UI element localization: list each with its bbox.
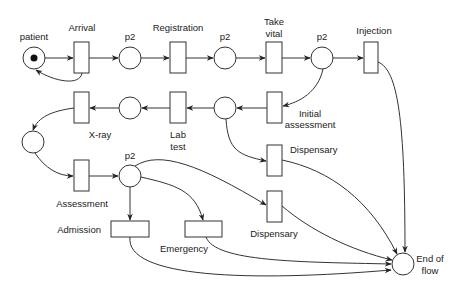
transition-initial-assessment[interactable]: Initial assessment (267, 92, 336, 130)
place-label: patient (20, 31, 49, 42)
place-before-lab-test[interactable] (214, 97, 236, 119)
transition-injection[interactable]: Injection (356, 25, 391, 73)
place-p2-after-arrival[interactable]: p2 (119, 31, 141, 69)
place-patient[interactable]: patient (20, 31, 49, 69)
petri-net-diagram: patient p2 p2 p2 p2 End of flow Arrival … (0, 0, 462, 290)
token-icon (31, 55, 38, 62)
place-p2-after-take-vital[interactable]: p2 (311, 31, 333, 69)
arc-p2-emergency (141, 177, 203, 220)
arc-p2-dispensary (135, 160, 266, 205)
transition-registration[interactable]: Registration (153, 22, 204, 73)
transition-label: X-ray (89, 129, 112, 140)
transition-label: Registration (153, 22, 204, 33)
place-p2-after-assessment[interactable]: p2 (119, 150, 141, 187)
transition-dispensary-2[interactable]: Dispensary (250, 191, 298, 239)
transition-label: Arrival (69, 22, 96, 33)
transition-label: Emergency (160, 243, 208, 254)
transition-lab-test[interactable]: Lab test (170, 92, 186, 152)
transition-label: Dispensary (290, 144, 338, 155)
transition-label-line2: vital (266, 28, 283, 39)
arc-dispensary2-end (282, 206, 392, 260)
arc-emergency-end (206, 237, 391, 264)
arc-injection-end (378, 62, 405, 252)
place-end-of-flow[interactable]: End of flow (392, 253, 444, 276)
place-p2-after-registration[interactable]: p2 (214, 31, 236, 69)
transition-assessment[interactable]: Assessment (56, 160, 108, 209)
transition-arrival[interactable]: Arrival (69, 22, 96, 73)
place-label: p2 (317, 31, 328, 42)
transition-label: Admission (57, 224, 101, 235)
transition-label-line1: Take (264, 16, 284, 27)
transition-label-line2: test (170, 141, 186, 152)
transition-label-line2: assessment (285, 119, 336, 130)
arc-place-assessment (35, 153, 73, 176)
transition-label-line1: Lab (170, 129, 186, 140)
place-before-xray[interactable] (119, 97, 141, 119)
arc-xray-place (33, 108, 74, 130)
transition-xray[interactable]: X-ray (74, 92, 112, 140)
place-label: p2 (220, 31, 231, 42)
transition-label: Injection (356, 25, 391, 36)
transition-admission[interactable]: Admission (57, 221, 149, 237)
place-label: p2 (125, 31, 136, 42)
transition-label-line1: Initial (299, 108, 321, 119)
place-label-line1: End of (416, 253, 444, 264)
place-label: p2 (125, 150, 136, 161)
place-before-assessment[interactable] (22, 131, 44, 153)
arc-place-dispensary (226, 119, 266, 161)
transition-label: Dispensary (250, 228, 298, 239)
transition-emergency[interactable]: Emergency (160, 221, 222, 254)
place-label-line2: flow (422, 265, 439, 276)
transition-label: Assessment (56, 198, 108, 209)
transition-dispensary-1[interactable]: Dispensary (267, 144, 338, 176)
arc-dispensary-end (282, 160, 397, 254)
arc-p2-initial-assessment (283, 69, 323, 106)
transition-take-vital[interactable]: Take vital (264, 16, 284, 73)
